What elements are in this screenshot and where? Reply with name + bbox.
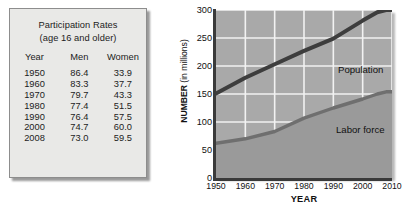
table-row: 1970 79.7 43.3 [10, 90, 146, 101]
cell-year: 2008 [10, 133, 59, 144]
cell-men: 74.7 [59, 122, 100, 133]
table-row: 2008 73.0 59.5 [10, 133, 146, 144]
series-label-population: Population [338, 64, 383, 75]
y-tick-label: 250 [184, 33, 212, 43]
cell-women: 57.5 [100, 111, 146, 122]
y-tick-label: 100 [184, 117, 212, 127]
cell-year: 1950 [10, 68, 59, 79]
y-tick-label: 200 [184, 61, 212, 71]
figure-root: Participation Rates (age 16 and older) Y… [0, 0, 406, 219]
table-row: 1960 83.3 37.7 [10, 79, 146, 90]
cell-women: 51.5 [100, 100, 146, 111]
cell-men: 77.4 [59, 100, 100, 111]
cell-year: 1960 [10, 79, 59, 90]
cell-women: 60.0 [100, 122, 146, 133]
x-tick-label: 1960 [236, 181, 255, 191]
cell-women: 37.7 [100, 79, 146, 90]
series-label-labor-force: Labor force [336, 124, 385, 135]
x-tick-label: 1970 [265, 181, 284, 191]
x-tick-label: 1950 [206, 181, 225, 191]
x-axis-title: YEAR [216, 194, 392, 204]
table-row: 1990 76.4 57.5 [10, 111, 146, 122]
x-axis-ticks: 1950196019701980199020002010 [216, 181, 392, 195]
cell-year: 1990 [10, 111, 59, 122]
table-row: 2000 74.7 60.0 [10, 122, 146, 133]
cell-men: 86.4 [59, 68, 100, 79]
y-tick-label: 300 [184, 5, 212, 15]
cell-men: 83.3 [59, 79, 100, 90]
cell-year: 2000 [10, 122, 59, 133]
x-tick-label: 1990 [324, 181, 343, 191]
table-title: Participation Rates (age 16 and older) [10, 9, 146, 44]
table-row: 1980 77.4 51.5 [10, 100, 146, 111]
y-axis-ticks: 050100150200250300 [182, 0, 212, 185]
column-header-women: Women [100, 52, 146, 68]
cell-year: 1970 [10, 90, 59, 101]
population-labor-force-chart: NUMBER (in millions) 050100150200250300 … [168, 0, 406, 219]
table-header-row: Year Men Women [10, 52, 146, 68]
cell-year: 1980 [10, 100, 59, 111]
cell-men: 73.0 [59, 133, 100, 144]
chart-svg [216, 10, 392, 178]
table-title-line-1: Participation Rates [10, 19, 146, 32]
table-row: 1950 86.4 33.9 [10, 68, 146, 79]
table-title-line-2: (age 16 and older) [10, 32, 146, 45]
plot-area: Population Labor force [216, 10, 392, 178]
participation-rates-panel: Participation Rates (age 16 and older) Y… [9, 8, 147, 178]
cell-women: 43.3 [100, 90, 146, 101]
column-header-year: Year [10, 52, 59, 68]
column-header-men: Men [59, 52, 100, 68]
cell-women: 59.5 [100, 133, 146, 144]
y-tick-label: 150 [184, 89, 212, 99]
x-tick-label: 2000 [353, 181, 372, 191]
y-tick-label: 50 [184, 145, 212, 155]
x-tick-label: 2010 [382, 181, 401, 191]
cell-men: 76.4 [59, 111, 100, 122]
participation-rates-table: Year Men Women 1950 86.4 33.9 1960 83.3 … [10, 52, 146, 143]
cell-men: 79.7 [59, 90, 100, 101]
x-tick-label: 1980 [294, 181, 313, 191]
cell-women: 33.9 [100, 68, 146, 79]
